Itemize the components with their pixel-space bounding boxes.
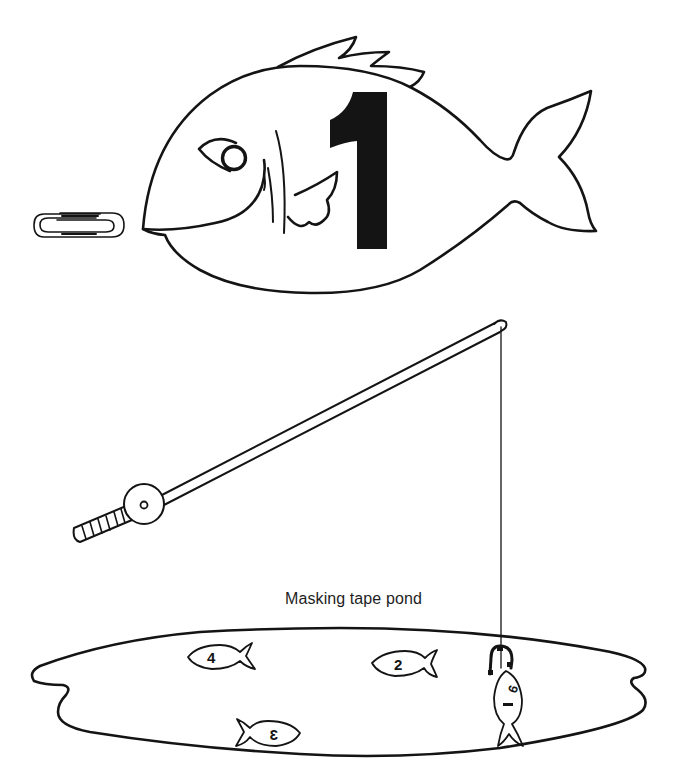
pond-fish-2: 2 [372, 650, 437, 677]
pond-caption: Masking tape pond [285, 590, 422, 608]
pond-fish-3-number: 3 [270, 726, 278, 743]
fishing-rod-icon [74, 320, 507, 542]
pond-fish-2-number: 2 [394, 656, 402, 673]
paperclip-icon [34, 213, 124, 237]
rod-handle-grip [74, 506, 132, 542]
masking-tape-pond [32, 628, 646, 756]
big-fish-drawing: 1 [143, 37, 596, 293]
pectoral-fin [288, 172, 337, 226]
hooked-fish: 6 [488, 645, 523, 746]
fishing-game-illustration: 1 4 2 3 [0, 0, 681, 782]
pond-fish-3: 3 [236, 719, 300, 746]
big-number-label: 1 [330, 92, 387, 249]
pond-fish-4-number: 4 [207, 649, 216, 666]
pond-fish-4: 4 [188, 643, 255, 669]
reel-icon [124, 484, 164, 524]
dorsal-fin [278, 37, 424, 87]
eye-icon [199, 139, 236, 171]
